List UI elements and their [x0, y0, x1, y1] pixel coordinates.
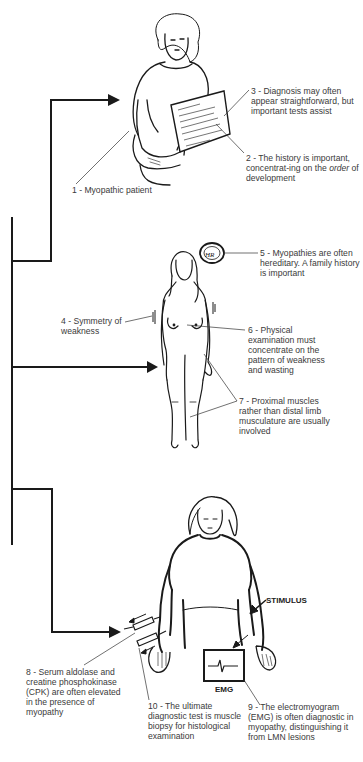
label-symmetry: 4 - Symmetry of weakness [61, 316, 133, 336]
leader-lines-2 [125, 253, 258, 417]
label-history: 2 - The history is important, concentrat… [246, 153, 360, 183]
label-electromyogram: 9 - The electromyogram (EMG) is often di… [248, 702, 358, 742]
label-serum-aldolase: 8 - Serum aldolase and creatine phosphok… [26, 667, 122, 717]
arrow-right-icon [109, 626, 121, 638]
label-hereditary: 5 - Myopathies are often hereditary. A f… [260, 248, 360, 278]
stimulus-arrow-icon [250, 600, 266, 614]
svg-text:HR: HR [204, 251, 215, 259]
label-muscle-biopsy: 10 - The ultimate diagnostic test is mus… [148, 701, 244, 741]
flow-connector [12, 100, 150, 632]
medical-document-illustration [171, 91, 230, 152]
family-history-inset-icon: HR [200, 243, 224, 263]
label-stimulus: STIMULUS [266, 596, 307, 605]
label-proximal-muscles: 7 - Proximal muscles rather than distal … [239, 396, 331, 436]
arrow-right-icon [147, 361, 158, 373]
label-physical-examination: 6 - Physical examination must concentrat… [248, 325, 338, 375]
label-history-emphasis: order [329, 163, 349, 173]
label-diagnosis: 3 - Diagnosis may often appear straightf… [251, 86, 359, 116]
label-emg: EMG [215, 685, 233, 694]
tests-patient-illustration [159, 497, 264, 652]
label-myopathic-patient: 1 - Myopathic patient [72, 185, 152, 195]
arrow-right-icon [108, 94, 120, 106]
standing-patient-illustration [162, 252, 212, 448]
emg-monitor-icon [204, 650, 244, 681]
